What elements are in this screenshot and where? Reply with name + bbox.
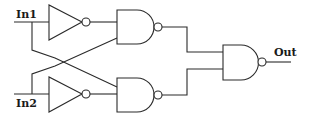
nand-gate-3-bubble	[258, 58, 266, 66]
inverter-1	[49, 5, 117, 40]
nand-gate-1-bubble	[154, 23, 162, 31]
inverter-1-bubble	[82, 18, 90, 26]
input1-wire	[14, 22, 117, 87]
nand-gate-1	[117, 10, 223, 52]
nand-gate-2	[117, 69, 223, 112]
output-label: Out	[274, 46, 298, 59]
inverter-2-bubble	[82, 90, 90, 98]
nand-gate-2-bubble	[154, 91, 162, 99]
input1-label: In1	[16, 8, 37, 21]
logic-circuit-diagram: In1 In2 Out	[0, 0, 311, 120]
input2-label: In2	[16, 97, 37, 110]
